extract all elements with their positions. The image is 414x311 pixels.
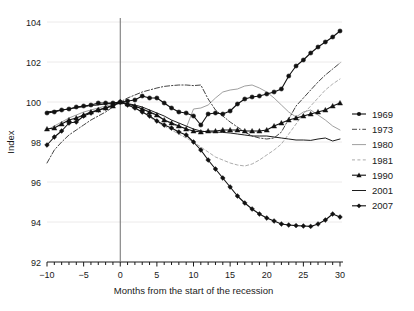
x-tick-label: 15 xyxy=(225,270,235,280)
data-point-marker xyxy=(272,219,277,224)
data-point-marker xyxy=(213,111,217,115)
legend-item-2001[interactable]: 2001 xyxy=(352,185,393,196)
x-axis-title: Months from the start of the recession xyxy=(114,285,273,296)
x-tick-label: −10 xyxy=(39,270,54,280)
line-chart: −10−505101520253092949698100102104Months… xyxy=(0,0,414,311)
data-point-marker xyxy=(264,216,269,221)
data-point-marker xyxy=(59,121,64,126)
data-point-marker xyxy=(206,112,210,116)
legend-swatch-marker xyxy=(357,203,362,208)
data-point-marker xyxy=(294,223,299,228)
data-point-marker xyxy=(89,103,93,107)
series-line-2007 xyxy=(47,102,340,226)
data-point-marker xyxy=(301,58,305,62)
data-point-marker xyxy=(155,96,159,100)
legend-label: 1981 xyxy=(372,155,393,166)
data-point-marker xyxy=(265,92,269,96)
data-point-marker xyxy=(221,112,225,116)
data-point-marker xyxy=(191,114,195,118)
chart-container: −10−505101520253092949698100102104Months… xyxy=(0,0,414,311)
y-tick-label: 96 xyxy=(31,178,41,188)
x-tick-label: 10 xyxy=(188,270,198,280)
legend-swatch-marker xyxy=(357,112,361,116)
data-point-marker xyxy=(133,98,137,102)
x-tick-label: 25 xyxy=(298,270,308,280)
data-point-marker xyxy=(147,96,151,100)
y-tick-label: 94 xyxy=(31,218,41,228)
y-tick-label: 100 xyxy=(26,98,41,108)
data-point-marker xyxy=(60,108,64,112)
y-tick-label: 98 xyxy=(31,138,41,148)
data-point-marker xyxy=(272,90,276,94)
data-point-marker xyxy=(104,101,108,105)
data-point-marker xyxy=(287,74,291,78)
data-point-marker xyxy=(338,215,343,220)
data-point-marker xyxy=(235,102,239,106)
data-point-marker xyxy=(331,35,335,39)
data-point-marker xyxy=(243,97,247,101)
data-point-marker xyxy=(176,130,181,135)
data-point-marker xyxy=(177,110,181,114)
data-point-marker xyxy=(301,224,306,229)
data-point-marker xyxy=(323,107,328,112)
series-line-2001 xyxy=(47,102,340,141)
data-point-marker xyxy=(74,105,78,109)
legend-item-2007[interactable]: 2007 xyxy=(352,200,393,211)
legend-item-1990[interactable]: 1990 xyxy=(352,170,393,181)
legend-label: 1980 xyxy=(372,139,393,150)
legend-label: 2007 xyxy=(372,200,393,211)
legend-label: 1973 xyxy=(372,124,393,135)
x-tick-label: 0 xyxy=(118,270,123,280)
data-point-marker xyxy=(338,29,342,33)
legend-item-1973[interactable]: 1973 xyxy=(352,124,393,135)
legend-label: 1969 xyxy=(372,109,393,120)
y-tick-label: 104 xyxy=(26,18,41,28)
data-point-marker xyxy=(184,111,188,115)
data-point-marker xyxy=(162,101,166,105)
x-tick-label: 20 xyxy=(262,270,272,280)
legend-label: 1990 xyxy=(372,170,393,181)
data-point-marker xyxy=(169,106,173,110)
data-point-marker xyxy=(45,111,49,115)
data-point-marker xyxy=(67,107,71,111)
data-point-marker xyxy=(96,101,100,105)
data-point-marker xyxy=(169,126,174,131)
data-point-marker xyxy=(250,95,254,99)
data-point-marker xyxy=(279,87,283,91)
data-point-marker xyxy=(294,64,298,68)
data-point-marker xyxy=(286,223,291,228)
data-point-marker xyxy=(140,94,144,98)
data-point-marker xyxy=(257,94,261,98)
data-point-marker xyxy=(228,109,232,113)
data-point-marker xyxy=(199,123,203,127)
legend-item-1981[interactable]: 1981 xyxy=(352,155,393,166)
x-tick-label: 5 xyxy=(154,270,159,280)
legend-item-1969[interactable]: 1969 xyxy=(352,109,393,120)
y-tick-label: 92 xyxy=(31,258,41,268)
x-tick-label: 30 xyxy=(335,270,345,280)
data-point-marker xyxy=(52,110,56,114)
data-point-marker xyxy=(337,100,342,105)
data-point-marker xyxy=(309,51,313,55)
x-tick-label: −5 xyxy=(78,270,88,280)
series-line-1981 xyxy=(47,79,340,166)
data-point-marker xyxy=(308,224,313,229)
data-point-marker xyxy=(323,40,327,44)
y-tick-label: 102 xyxy=(26,58,41,68)
legend-label: 2001 xyxy=(372,185,393,196)
data-point-marker xyxy=(316,45,320,49)
data-point-marker xyxy=(82,104,86,108)
y-axis-title: Index xyxy=(5,130,16,153)
legend-item-1980[interactable]: 1980 xyxy=(352,139,393,150)
